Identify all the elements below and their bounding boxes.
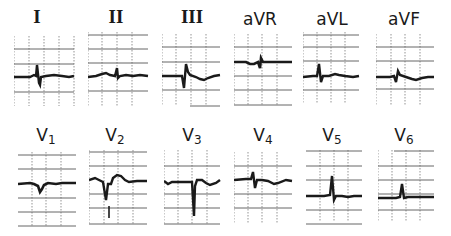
- lead-label-V6: V6: [374, 126, 434, 149]
- ecg-panel-I: [14, 36, 76, 108]
- ecg-panel-aVF: [376, 34, 438, 108]
- ecg-panel-aVR: [234, 34, 296, 108]
- ecg-panel-V5: [306, 150, 368, 232]
- lead-label-II: II: [86, 8, 146, 26]
- ecg-panel-V2: [89, 150, 151, 230]
- lead-label-I: I: [7, 8, 67, 26]
- lead-label-V2: V2: [85, 126, 145, 149]
- lead-label-V4: V4: [233, 126, 293, 149]
- ecg-panel-V6: [378, 150, 440, 230]
- ecg-panel-V3: [164, 150, 226, 230]
- ecg-panel-V1: [18, 152, 80, 230]
- ecg-panel-V4: [234, 150, 296, 230]
- lead-label-aVL: aVL: [302, 10, 362, 28]
- ecg-panel-III: [162, 34, 224, 108]
- lead-label-V5: V5: [302, 126, 362, 149]
- ecg-panel-aVL: [303, 32, 365, 108]
- lead-label-V3: V3: [162, 126, 222, 149]
- ecg-panel-II: [88, 32, 150, 108]
- lead-label-aVF: aVF: [374, 10, 434, 28]
- lead-label-aVR: aVR: [230, 10, 290, 28]
- lead-label-III: III: [162, 8, 222, 26]
- lead-label-V1: V1: [16, 126, 76, 149]
